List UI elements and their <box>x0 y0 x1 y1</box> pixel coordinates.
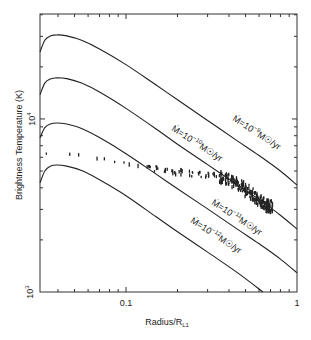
data-point <box>253 192 254 194</box>
data-point <box>261 202 262 205</box>
data-point <box>129 162 130 166</box>
data-point <box>201 176 202 178</box>
x-tick-label-1: 1 <box>294 298 299 308</box>
data-point <box>222 177 223 180</box>
data-point <box>260 196 261 199</box>
data-point <box>149 165 150 168</box>
data-point <box>114 161 115 163</box>
data-point <box>254 200 255 204</box>
data-point <box>216 175 217 178</box>
data-point <box>272 205 273 209</box>
data-point <box>259 201 260 204</box>
data-point <box>104 157 105 160</box>
y-axis-label: Brightness Temperature (K) <box>14 90 24 200</box>
data-point <box>236 181 237 183</box>
data-point <box>252 199 253 201</box>
data-point <box>180 173 181 177</box>
data-point <box>237 188 238 190</box>
data-point <box>228 173 229 176</box>
data-point <box>271 199 272 203</box>
data-point <box>174 171 175 174</box>
data-point <box>248 186 249 190</box>
data-point <box>172 169 173 173</box>
data-point <box>270 211 271 215</box>
data-point <box>256 192 257 195</box>
data-point <box>220 172 221 176</box>
data-point <box>245 190 246 192</box>
data-point <box>214 174 215 177</box>
curve-label-1e-12: Ṁ=10−12M☉/yr <box>189 214 244 255</box>
data-point <box>240 189 241 192</box>
data-point <box>233 180 234 182</box>
observed-data-points <box>46 153 273 215</box>
data-point <box>266 209 267 213</box>
data-point <box>192 171 193 173</box>
data-point <box>248 184 249 186</box>
data-point <box>243 180 244 183</box>
data-point <box>257 199 258 201</box>
data-point <box>245 186 246 189</box>
data-point <box>96 157 97 161</box>
data-point <box>252 187 253 190</box>
data-point <box>237 180 238 184</box>
data-point <box>154 170 155 173</box>
data-point <box>256 203 257 205</box>
y-tick-labels: 103 104 <box>24 112 37 299</box>
data-point <box>167 168 168 171</box>
data-point <box>191 175 192 178</box>
data-point <box>241 179 242 182</box>
data-point <box>198 172 199 174</box>
data-point <box>249 190 250 193</box>
data-point <box>242 184 243 188</box>
x-tick-label-0.1: 0.1 <box>120 298 133 308</box>
data-point <box>147 165 148 168</box>
data-point <box>189 170 190 173</box>
data-point <box>232 176 233 180</box>
x-tick-labels: 0.1 1 <box>120 298 300 308</box>
data-point <box>189 174 190 178</box>
data-point <box>155 165 156 167</box>
data-point <box>219 174 220 177</box>
data-point <box>233 185 234 188</box>
data-point <box>205 176 206 179</box>
data-point <box>46 153 47 155</box>
data-point <box>225 182 226 186</box>
data-point <box>257 203 258 207</box>
data-point <box>258 198 259 202</box>
data-point <box>255 192 256 194</box>
data-point <box>253 197 254 201</box>
plot-frame <box>40 14 297 292</box>
curve-label-1e-9: Ṁ=10−9M☉/yr <box>231 112 283 151</box>
data-point <box>251 193 252 196</box>
data-point <box>227 178 228 182</box>
data-point <box>180 168 181 172</box>
data-point <box>247 192 248 194</box>
data-point <box>268 202 269 204</box>
model-curves <box>40 35 297 292</box>
data-point <box>226 176 227 179</box>
data-point <box>264 201 265 204</box>
data-point <box>231 185 232 189</box>
data-point <box>137 164 138 168</box>
data-point <box>268 199 269 202</box>
data-point <box>179 170 180 174</box>
data-point <box>123 161 124 163</box>
y-tick-label-1e4: 104 <box>26 112 37 126</box>
data-point <box>164 171 165 173</box>
data-point <box>208 175 209 178</box>
data-point <box>250 196 251 201</box>
axis-ticks <box>40 14 297 292</box>
data-point <box>235 185 236 187</box>
data-point <box>262 206 263 209</box>
data-point <box>269 206 270 211</box>
data-point <box>78 153 79 157</box>
data-point <box>247 187 248 191</box>
x-axis-label: Radius/RL1 <box>145 317 189 328</box>
data-point <box>69 153 70 156</box>
y-tick-label-1e3: 103 <box>24 285 35 299</box>
chart: Ṁ=10−9M☉/yr Ṁ=10−10M☉/yr Ṁ=10−11M☉/yr Ṁ=… <box>0 0 311 340</box>
model-curve-0 <box>40 35 297 185</box>
data-point <box>220 179 221 182</box>
data-point <box>261 205 262 209</box>
